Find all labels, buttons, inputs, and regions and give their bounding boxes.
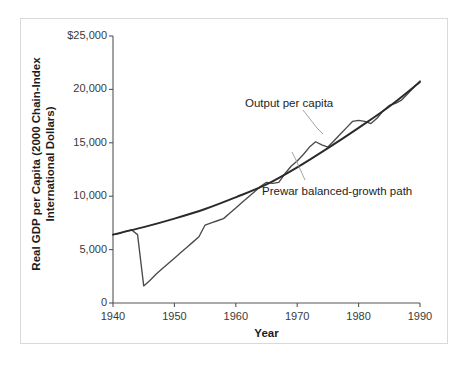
annotation-leader-lines — [292, 110, 323, 180]
y-tick-label: $25,000 — [49, 29, 107, 41]
data-series — [113, 81, 420, 286]
x-axis-title: Year — [113, 327, 420, 339]
y-tick-label: 20,000 — [49, 82, 107, 94]
annotation-output-per-capita: Output per capita — [245, 97, 333, 109]
y-tick-label: 5,000 — [49, 243, 107, 255]
annotation-prewar-balanced-growth-path: Prewar balanced-growth path — [262, 185, 412, 197]
x-tick-label: 1990 — [395, 310, 445, 322]
y-axis-title-line2: International Dollars) — [44, 106, 56, 221]
chart-figure: 05,00010,00015,00020,000$25,000 19401950… — [0, 0, 467, 367]
y-axis-title-line1: Real GDP per Capita (2000 Chain-Index — [30, 57, 42, 270]
x-tick-label: 1980 — [334, 310, 384, 322]
axes — [109, 36, 420, 307]
y-tick-label: 0 — [49, 296, 107, 308]
x-tick-label: 1970 — [272, 310, 322, 322]
x-tick-label: 1940 — [88, 310, 138, 322]
x-tick-label: 1960 — [211, 310, 261, 322]
y-tick-label: 15,000 — [49, 136, 107, 148]
x-tick-label: 1950 — [149, 310, 199, 322]
y-axis-title: Real GDP per Capita (2000 Chain-Index In… — [29, 39, 57, 289]
y-tick-label: 10,000 — [49, 189, 107, 201]
